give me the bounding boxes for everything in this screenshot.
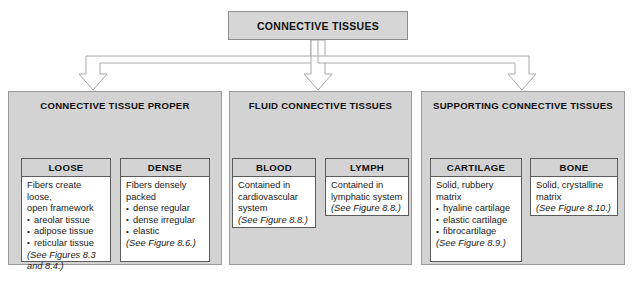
card-title-lymph: LYMPH — [350, 162, 384, 173]
list-item: hyaline cartilage — [436, 203, 517, 215]
list-item: elastic — [126, 226, 205, 238]
card-header-loose: LOOSE — [22, 159, 110, 177]
card-body-blood: Contained in cardiovascular system (See … — [233, 177, 315, 229]
card-list-loose: areolar tissue adipose tissue reticular … — [27, 215, 106, 250]
card-body-lymph: Contained in lymphatic system (See Figur… — [326, 177, 408, 218]
card-header-blood: BLOOD — [233, 159, 315, 177]
card-title-cartilage: CARTILAGE — [447, 162, 506, 173]
card-header-bone: BONE — [531, 159, 617, 177]
root-box-connective-tissues: CONNECTIVE TISSUES — [228, 11, 408, 40]
card-title-blood: BLOOD — [256, 162, 292, 173]
card-loose: LOOSE Fibers create loose, open framewor… — [21, 158, 111, 262]
card-cartilage: CARTILAGE Solid, rubbery matrix hyaline … — [430, 158, 522, 262]
root-box-label: CONNECTIVE TISSUES — [257, 20, 379, 32]
card-lead-bone: Solid, crystalline matrix — [536, 180, 613, 203]
arrow-root-to-fluid-connective-tissues — [304, 40, 332, 90]
card-blood: BLOOD Contained in cardiovascular system… — [232, 158, 316, 228]
card-title-bone: BONE — [560, 162, 589, 173]
list-item: areolar tissue — [27, 215, 106, 227]
card-lead-dense: Fibers densely packed — [126, 180, 205, 203]
card-body-bone: Solid, crystalline matrix (See Figure 8.… — [531, 177, 617, 218]
list-item: dense regular — [126, 203, 205, 215]
card-title-loose: LOOSE — [48, 162, 83, 173]
card-figure-reference-bone: (See Figure 8.10.) — [536, 203, 613, 215]
card-lymph: LYMPH Contained in lymphatic system (See… — [325, 158, 409, 216]
card-body-dense: Fibers densely packed dense regular dens… — [121, 177, 209, 261]
list-item: adipose tissue — [27, 226, 106, 238]
group-title-supporting-connective-tissues: SUPPORTING CONNECTIVE TISSUES — [422, 100, 624, 111]
card-lead-cartilage: Solid, rubbery matrix — [436, 180, 517, 203]
card-title-dense: DENSE — [148, 162, 183, 173]
card-figure-reference-cartilage: (See Figure 8.9.) — [436, 238, 517, 250]
card-figure-reference-blood: (See Figure 8.8.) — [238, 215, 311, 227]
group-title-fluid-connective-tissues: FLUID CONNECTIVE TISSUES — [230, 100, 411, 111]
group-title-connective-tissue-proper: CONNECTIVE TISSUE PROPER — [9, 100, 221, 111]
card-header-lymph: LYMPH — [326, 159, 408, 177]
connective-tissues-flowchart: CONNECTIVE TISSUES CONNECTIVE TISSUE PRO… — [0, 0, 632, 284]
arrow-root-to-supporting-connective-tissues — [311, 40, 536, 90]
card-figure-reference-loose: (See Figures 8.3 and 8.4.) — [27, 250, 106, 273]
card-figure-reference-dense: (See Figure 8.6.) — [126, 238, 205, 250]
card-bone: BONE Solid, crystalline matrix (See Figu… — [530, 158, 618, 216]
card-header-dense: DENSE — [121, 159, 209, 177]
card-lead-blood: Contained in cardiovascular system — [238, 180, 311, 215]
list-item: dense irregular — [126, 215, 205, 227]
card-body-cartilage: Solid, rubbery matrix hyaline cartilage … — [431, 177, 521, 261]
list-item: elastic cartilage — [436, 215, 517, 227]
list-item: reticular tissue — [27, 238, 106, 250]
card-body-loose: Fibers create loose, open framework areo… — [22, 177, 110, 276]
card-list-cartilage: hyaline cartilage elastic cartilage fibr… — [436, 203, 517, 238]
list-item: fibrocartilage — [436, 226, 517, 238]
card-figure-reference-lymph: (See Figure 8.8.) — [331, 203, 404, 215]
card-list-dense: dense regular dense irregular elastic — [126, 203, 205, 238]
arrow-root-to-connective-tissue-proper — [79, 40, 318, 90]
card-lead-loose: Fibers create loose, open framework — [27, 180, 106, 215]
card-lead-lymph: Contained in lymphatic system — [331, 180, 404, 203]
card-header-cartilage: CARTILAGE — [431, 159, 521, 177]
card-dense: DENSE Fibers densely packed dense regula… — [120, 158, 210, 262]
